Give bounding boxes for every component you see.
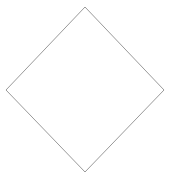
- drawing-canvas: [0, 0, 174, 182]
- diamond-shape-svg: [0, 0, 174, 182]
- canvas-background: [0, 0, 174, 182]
